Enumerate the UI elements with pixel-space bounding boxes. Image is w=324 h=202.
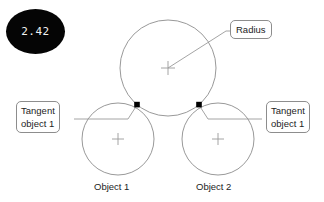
callout-radius[interactable]: Radius [230, 20, 272, 39]
value-badge-text: 2.42 [21, 25, 50, 38]
callout-tangent-object-1-line-1: Tangent [21, 104, 55, 117]
callout-radius-label: Radius [236, 23, 266, 36]
left-circle-center-crosshair [112, 133, 124, 145]
tangent-point-marker-right [196, 102, 202, 108]
right-circle-center-crosshair [212, 133, 224, 145]
tangent-1-leader-line [74, 105, 137, 119]
callout-tangent-object-2[interactable]: Tangent object 1 [266, 101, 310, 133]
callout-tangent-object-2-line-1: Tangent [271, 104, 305, 117]
tangent-2-leader-line [199, 105, 262, 119]
callout-tangent-object-1[interactable]: Tangent object 1 [16, 101, 60, 133]
callout-tangent-object-2-line-2: object 1 [271, 117, 305, 130]
tangent-point-markers [134, 102, 202, 108]
diagram-canvas: 2.42 Radius Tangent object 1 Tangent obj… [0, 0, 324, 202]
tangent-point-marker-left [134, 102, 140, 108]
radius-line [168, 31, 226, 68]
caption-object-1: Object 1 [94, 181, 129, 192]
callout-tangent-object-1-line-2: object 1 [21, 117, 55, 130]
value-badge: 2.42 [6, 9, 65, 54]
caption-object-2: Object 2 [196, 181, 231, 192]
